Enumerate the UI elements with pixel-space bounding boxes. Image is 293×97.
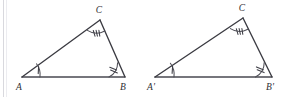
angle-tick-1 bbox=[256, 67, 263, 70]
angle-tick-1 bbox=[172, 66, 173, 73]
angle-tick-1 bbox=[110, 67, 117, 70]
edge-c-b-prime bbox=[243, 18, 272, 77]
similar-triangles-figure: A B C bbox=[0, 0, 293, 97]
angle-tick-2 bbox=[96, 30, 97, 36]
angle-tick-3 bbox=[99, 30, 100, 36]
vertex-label-b: B bbox=[120, 82, 126, 92]
edge-ac bbox=[22, 20, 100, 77]
angle-tick-2 bbox=[239, 29, 240, 35]
angle-mark-b bbox=[109, 63, 118, 77]
triangle-abc: A B C bbox=[15, 5, 126, 92]
triangles-diagram-svg: A B C bbox=[0, 0, 293, 97]
vertex-label-b-prime: B' bbox=[266, 82, 275, 92]
angle-mark-c-prime bbox=[230, 29, 247, 35]
edge-a-prime-c bbox=[155, 18, 243, 77]
vertex-label-a: A bbox=[15, 82, 22, 92]
angle-mark-b-prime bbox=[256, 62, 265, 77]
vertex-label-c: C bbox=[96, 5, 103, 15]
angle-tick-3 bbox=[242, 29, 243, 35]
triangle-a-prime-b-prime-c: A' B' C bbox=[146, 3, 275, 92]
vertex-label-a-prime: A' bbox=[146, 82, 156, 92]
vertex-label-c-prime: C bbox=[239, 3, 246, 13]
angle-mark-c bbox=[87, 30, 104, 36]
